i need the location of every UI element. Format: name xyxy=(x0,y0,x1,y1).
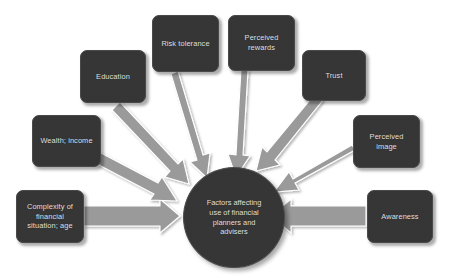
node-wealth-income-label: Wealth; income xyxy=(40,136,92,146)
center-node-factors[interactable]: Factors affecting use of financial plann… xyxy=(183,167,285,268)
diagram-canvas: Factors affecting use of financial plann… xyxy=(0,0,449,278)
node-complexity-label: Complexity of financial situation; age xyxy=(27,202,73,231)
node-trust[interactable]: Trust xyxy=(302,50,366,101)
node-perceived-rewards-label: Perceived rewards xyxy=(245,33,279,53)
arrow-perceived-image-to-center xyxy=(274,145,355,192)
node-trust-label: Trust xyxy=(325,71,342,81)
arrow-risk-tolerance-to-center xyxy=(171,71,210,178)
node-education-label: Education xyxy=(96,72,130,82)
center-node-label: Factors affecting use of financial plann… xyxy=(200,198,269,238)
node-risk-tolerance-label: Risk tolerance xyxy=(161,39,209,49)
node-awareness-label: Awareness xyxy=(381,212,418,222)
arrow-awareness-to-center xyxy=(271,199,366,233)
arrow-trust-to-center xyxy=(256,94,323,171)
arrow-complexity-to-center xyxy=(84,199,180,233)
node-risk-tolerance[interactable]: Risk tolerance xyxy=(152,15,219,72)
node-perceived-rewards[interactable]: Perceived rewards xyxy=(228,15,295,71)
node-perceived-image-label: Perceived image xyxy=(370,132,404,152)
node-wealth-income[interactable]: Wealth; income xyxy=(32,115,101,167)
node-complexity[interactable]: Complexity of financial situation; age xyxy=(16,190,84,243)
node-perceived-image[interactable]: Perceived image xyxy=(353,115,420,168)
node-education[interactable]: Education xyxy=(80,50,146,103)
arrow-perceived-rewards-to-center xyxy=(228,70,250,177)
node-awareness[interactable]: Awareness xyxy=(367,190,433,243)
